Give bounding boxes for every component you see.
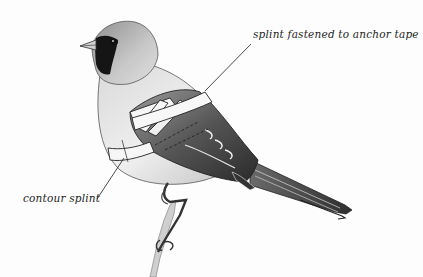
perch-twig	[150, 200, 176, 277]
illustration-figure: splint fastened to anchor tape contour s…	[0, 0, 423, 277]
leader-line-anchor	[205, 44, 251, 91]
bird-head	[80, 21, 158, 84]
tail	[250, 160, 352, 219]
bird-illustration	[0, 0, 423, 277]
annotation-contour-splint: contour splint	[23, 192, 100, 204]
annotation-anchor-tape: splint fastened to anchor tape	[253, 28, 419, 40]
eye	[110, 39, 118, 45]
leader-line-contour	[97, 158, 124, 199]
